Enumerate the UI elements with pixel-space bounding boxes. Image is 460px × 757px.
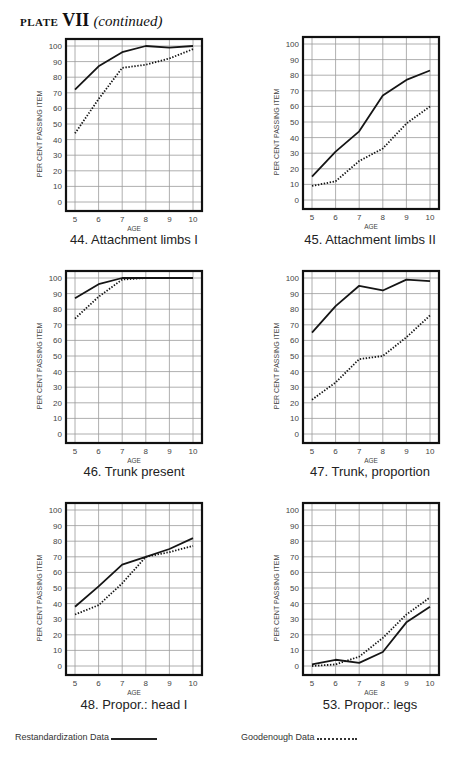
y-tick-label: 10 [290,180,299,189]
y-tick-label: 30 [290,149,299,158]
y-tick-label: 0 [58,662,63,671]
y-tick-label: 30 [290,383,299,392]
x-tick-label: 6 [333,679,338,688]
y-tick-label: 20 [290,165,299,174]
y-tick-label: 80 [290,537,299,546]
y-axis-label: PER CENT PASSING ITEM [273,555,280,642]
line-chart-plot: 01020304050607080901005678910AGEPER CENT… [0,30,230,230]
y-tick-label: 0 [58,430,63,439]
y-tick-label: 70 [290,553,299,562]
x-tick-label: 8 [381,679,386,688]
x-tick-label: 9 [404,447,409,456]
chart-caption-48: 48. Propor.: head I [34,697,234,712]
x-tick-label: 6 [96,679,101,688]
y-tick-label: 70 [53,89,62,98]
y-tick-label: 20 [290,631,299,640]
y-tick-label: 40 [53,136,62,145]
x-tick-label: 7 [357,679,362,688]
y-tick-label: 10 [290,646,299,655]
y-tick-label: 80 [290,305,299,314]
x-tick-label: 9 [167,215,172,224]
chart-44: 01020304050607080901005678910AGEPER CENT… [0,30,230,230]
chart-46: 01020304050607080901005678910AGEPER CENT… [0,262,230,462]
y-tick-label: 70 [290,87,299,96]
y-tick-label: 50 [290,118,299,127]
line-chart-plot: 01020304050607080901005678910AGEPER CENT… [0,494,230,694]
x-axis-label: AGE [364,689,378,696]
y-tick-label: 20 [53,399,62,408]
chart-caption-45: 45. Attachment limbs II [270,232,460,247]
y-tick-label: 40 [290,600,299,609]
y-axis-label: PER CENT PASSING ITEM [273,89,280,176]
x-tick-label: 6 [333,447,338,456]
y-tick-label: 80 [53,537,62,546]
chart-caption-46: 46. Trunk present [34,464,234,479]
y-tick-label: 30 [53,383,62,392]
legend-solid-label: Restandardization Data [15,732,109,742]
y-tick-label: 40 [290,134,299,143]
goodenough-series-line [75,278,193,319]
restandardization-series-line [312,71,430,177]
plate-suffix: (continued) [93,13,162,29]
chart-48: 01020304050607080901005678910AGEPER CENT… [0,494,230,694]
y-tick-label: 100 [49,42,63,51]
x-tick-label: 10 [189,679,198,688]
legend-dotted-label: Goodenough Data [241,732,315,742]
x-tick-label: 5 [73,447,78,456]
y-tick-label: 60 [53,336,62,345]
plot-frame [66,271,202,443]
x-tick-label: 8 [381,447,386,456]
goodenough-series-line [75,546,193,615]
plot-frame [66,503,202,675]
x-tick-label: 10 [189,447,198,456]
y-tick-label: 40 [53,368,62,377]
x-tick-label: 7 [357,213,362,222]
y-tick-label: 90 [53,58,62,67]
x-tick-label: 8 [144,215,149,224]
y-tick-label: 50 [53,120,62,129]
x-tick-label: 9 [404,679,409,688]
y-tick-label: 10 [53,646,62,655]
line-chart-plot: 01020304050607080901005678910AGEPER CENT… [237,262,460,462]
goodenough-series-line [312,597,430,666]
x-tick-label: 9 [404,213,409,222]
dotted-line-sample-icon [317,738,357,740]
chart-caption-47: 47. Trunk, proportion [270,464,460,479]
y-tick-label: 70 [53,553,62,562]
plot-frame [303,503,439,675]
y-tick-label: 80 [53,73,62,82]
grid [66,271,202,443]
y-tick-label: 90 [290,56,299,65]
y-tick-label: 70 [53,321,62,330]
y-tick-label: 90 [53,290,62,299]
y-tick-label: 20 [53,631,62,640]
x-tick-label: 5 [310,679,315,688]
restandardization-series-line [75,278,193,298]
y-tick-label: 60 [53,568,62,577]
x-tick-label: 5 [73,679,78,688]
y-tick-label: 80 [53,305,62,314]
chart-caption-44: 44. Attachment limbs I [34,232,234,247]
y-tick-label: 0 [295,430,300,439]
x-axis-label: AGE [127,689,141,696]
x-tick-label: 5 [73,215,78,224]
x-tick-label: 6 [333,213,338,222]
y-tick-label: 100 [286,274,300,283]
x-tick-label: 9 [167,447,172,456]
y-tick-label: 100 [286,40,300,49]
chart-caption-53: 53. Propor.: legs [270,697,460,712]
plot-frame [303,271,439,443]
y-tick-label: 30 [53,615,62,624]
chart-53: 01020304050607080901005678910AGEPER CENT… [237,494,460,694]
y-tick-label: 60 [290,102,299,111]
chart-45: 01020304050607080901005678910AGEPER CENT… [237,28,460,228]
y-tick-label: 50 [53,584,62,593]
x-axis-label: AGE [127,225,141,232]
y-tick-label: 60 [53,104,62,113]
plate-label: PLATE [20,16,58,28]
y-tick-label: 90 [290,522,299,531]
x-tick-label: 10 [426,447,435,456]
legend-restandardization: Restandardization Data [15,732,157,742]
y-tick-label: 20 [53,167,62,176]
y-tick-label: 100 [286,506,300,515]
